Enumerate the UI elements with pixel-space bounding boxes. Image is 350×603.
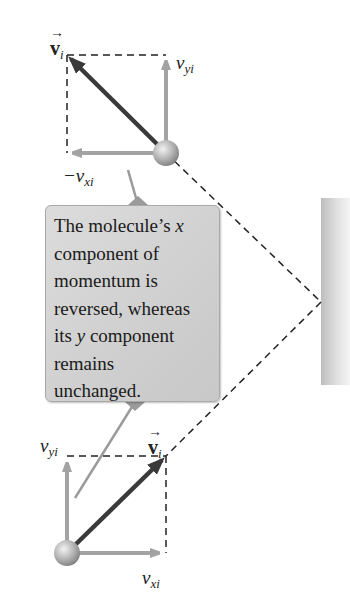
bottom-velocity-label: →vi <box>148 437 162 460</box>
vector-arrow-icon: → <box>148 425 162 439</box>
subscript: yi <box>48 444 57 459</box>
molecule-bottom <box>54 540 80 566</box>
callout-text: The molecule’s <box>54 215 175 236</box>
bottom-callout-connector <box>75 402 135 498</box>
subscript: yi <box>184 61 193 76</box>
top-vxi-label: −vxi <box>63 166 94 188</box>
callout-text: component <box>85 325 174 346</box>
velocity-symbol: v <box>148 436 158 458</box>
bottom-velocity-arrow <box>73 460 162 547</box>
callout-line-3: momentum is <box>54 267 213 295</box>
label-base: −v <box>63 165 84 186</box>
subscript: xi <box>150 576 159 591</box>
bottom-vxi-label: vxi <box>142 568 160 590</box>
explanation-callout: The molecule’s x component of momentum i… <box>45 205 220 402</box>
subscript: i <box>158 446 162 461</box>
vector-arrow-icon: → <box>50 26 64 40</box>
velocity-symbol: v <box>50 37 60 59</box>
callout-line-2: component of <box>54 240 213 268</box>
callout-line-7: unchanged. <box>54 377 213 405</box>
callout-text: its <box>54 325 77 346</box>
top-velocity-label: →vi <box>50 38 64 61</box>
callout-line-5: its y component <box>54 322 213 350</box>
bottom-vyi-label: vyi <box>40 436 58 458</box>
callout-line-6: remains <box>54 350 213 378</box>
top-vyi-label: vyi <box>176 53 194 75</box>
callout-line-4: reversed, whereas <box>54 295 213 323</box>
subscript: i <box>60 47 64 62</box>
molecule-top <box>153 140 179 166</box>
wall <box>321 198 350 385</box>
x-variable: x <box>175 215 183 236</box>
y-variable: y <box>77 325 85 346</box>
subscript: xi <box>84 174 93 189</box>
top-callout-pointer <box>128 196 148 205</box>
top-velocity-arrow <box>71 59 160 147</box>
callout-line-1: The molecule’s x <box>54 212 213 240</box>
